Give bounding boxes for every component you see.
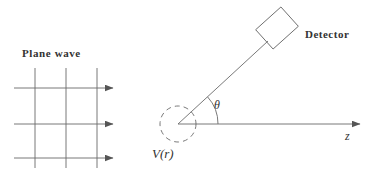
- detector-box: [256, 7, 299, 49]
- detector-label: Detector: [305, 28, 349, 40]
- potential-label: V(r): [152, 146, 174, 162]
- theta-label: θ: [214, 98, 220, 113]
- plane-wave-wavefronts: [35, 68, 97, 168]
- plane-wave-label: Plane wave: [22, 47, 81, 59]
- plane-wave-rays: [14, 88, 113, 158]
- z-axis-label: z: [345, 129, 350, 144]
- scattering-diagram: Plane wave Detector V(r) θ z: [0, 0, 382, 190]
- scattered-ray-line: [178, 41, 268, 124]
